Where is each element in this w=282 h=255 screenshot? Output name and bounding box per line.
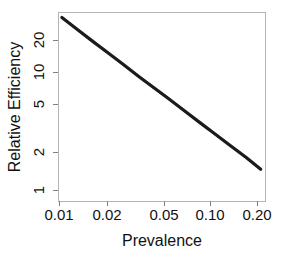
y-axis-title: Relative Efficiency — [6, 42, 23, 172]
y-tick-label-1: 1 — [30, 186, 47, 194]
chart-figure: 0.01 0.02 0.05 0.10 0.20 20 10 5 2 1 Pre… — [0, 0, 282, 255]
relative-efficiency-vs-prevalence-chart: 0.01 0.02 0.05 0.10 0.20 20 10 5 2 1 Pre… — [0, 0, 282, 255]
y-tick-label-2: 2 — [30, 148, 47, 156]
x-tick-label-0: 0.01 — [44, 206, 73, 223]
x-tick-label-3: 0.10 — [195, 206, 224, 223]
x-tick-label-4: 0.20 — [242, 206, 271, 223]
y-tick-label-10: 10 — [30, 64, 47, 81]
y-tick-label-5: 5 — [30, 100, 47, 108]
x-tick-label-1: 0.02 — [92, 206, 121, 223]
x-tick-label-2: 0.05 — [149, 206, 178, 223]
data-series-line — [62, 17, 261, 169]
x-axis-title: Prevalence — [122, 232, 202, 249]
y-tick-label-20: 20 — [30, 32, 47, 49]
y-axis-ticks — [53, 41, 58, 191]
